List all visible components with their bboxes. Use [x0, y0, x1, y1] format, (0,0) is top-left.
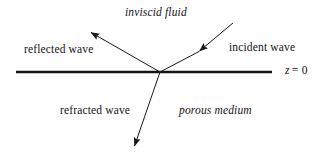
incident-wave-ray-segment: [160, 52, 199, 73]
label-porous-medium: porous medium: [179, 105, 252, 117]
interface-relation: = 0: [290, 64, 308, 76]
label-interface-z-equals-zero: z= 0: [285, 65, 308, 77]
label-inviscid-fluid: inviscid fluid: [125, 7, 187, 19]
wave-interface-diagram: inviscid fluid incident wave reflected w…: [0, 0, 328, 157]
label-incident-wave: incident wave: [229, 42, 295, 54]
refracted-wave-ray: [135, 72, 161, 146]
label-reflected-wave: reflected wave: [24, 44, 93, 56]
diagram-canvas: [0, 0, 328, 157]
incident-wave-ray: [200, 23, 234, 51]
reflected-wave-ray: [91, 33, 160, 73]
label-refracted-wave: refracted wave: [60, 105, 130, 117]
